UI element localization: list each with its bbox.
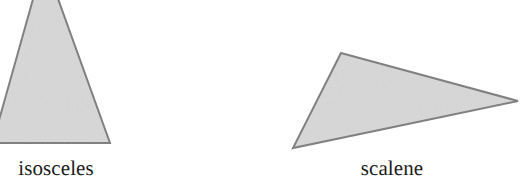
triangle-figure: isosceles scalene	[0, 0, 522, 195]
scalene-label: scalene	[336, 158, 448, 179]
isosceles-label: isosceles	[0, 158, 112, 179]
